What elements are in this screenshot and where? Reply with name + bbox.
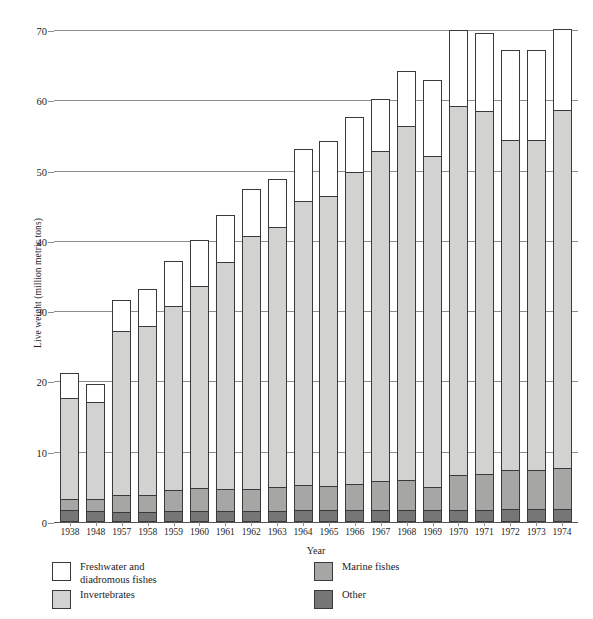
bar-segment-1968-inv — [397, 126, 416, 481]
legend-item-fresh[interactable]: Freshwater and diadromous fishes — [52, 561, 157, 586]
x-tick-label-1962: 1962 — [242, 527, 261, 537]
bar-segment-1948-oth — [86, 511, 105, 522]
bar-segment-1959-inv — [164, 306, 183, 491]
bar-segment-1938-fresh — [60, 373, 79, 399]
bar-segment-1972-fresh — [501, 50, 520, 141]
bar-segment-1957-mar — [112, 495, 131, 513]
bar-segment-1970-oth — [449, 510, 468, 522]
x-tick-label-1970: 1970 — [449, 527, 468, 537]
legend-label-inv: Invertebrates — [80, 589, 135, 602]
bar-segment-1966-inv — [345, 172, 364, 484]
bar-segment-1971-mar — [475, 474, 494, 511]
bar-segment-1968-mar — [397, 480, 416, 511]
bar-segment-1966-mar — [345, 484, 364, 512]
bar-segment-1964-fresh — [294, 149, 313, 203]
x-tick-label-1963: 1963 — [268, 527, 287, 537]
y-tick-label-30: 30 — [37, 307, 48, 318]
x-tick-mark-1968 — [407, 522, 408, 526]
bar-segment-1973-fresh — [527, 50, 546, 141]
legend-swatch-oth-icon — [314, 590, 333, 609]
x-tick-mark-1974 — [562, 522, 563, 526]
y-axis-title: Live weight (million metric tons) — [33, 183, 43, 383]
bar-segment-1974-fresh — [553, 29, 572, 111]
bar-segment-1973-mar — [527, 470, 546, 510]
bar-segment-1958-oth — [138, 512, 157, 522]
bar-segment-1963-mar — [268, 487, 287, 512]
legend-item-mar[interactable]: Marine fishes — [314, 561, 399, 581]
x-tick-mark-1971 — [484, 522, 485, 526]
bar-segment-1970-inv — [449, 106, 468, 476]
bar-segment-1959-fresh — [164, 261, 183, 307]
bar-segment-1964-mar — [294, 485, 313, 511]
x-tick-mark-1962 — [251, 522, 252, 526]
x-tick-mark-1963 — [277, 522, 278, 526]
bar-segment-1957-fresh — [112, 300, 131, 333]
bar-segment-1948-fresh — [86, 384, 105, 403]
bar-segment-1968-fresh — [397, 71, 416, 127]
legend-label-fresh: Freshwater and diadromous fishes — [80, 561, 157, 586]
y-tick-label-20: 20 — [37, 377, 48, 388]
bar-segment-1959-mar — [164, 490, 183, 512]
bar-segment-1960-oth — [190, 511, 209, 522]
x-tick-label-1948: 1948 — [86, 527, 105, 537]
x-tick-label-1968: 1968 — [397, 527, 416, 537]
bar-segment-1961-oth — [216, 511, 235, 522]
x-tick-label-1958: 1958 — [138, 527, 157, 537]
bar-segment-1968-oth — [397, 510, 416, 522]
x-tick-mark-1966 — [355, 522, 356, 526]
bar-segment-1963-oth — [268, 511, 287, 522]
x-tick-label-1938: 1938 — [60, 527, 79, 537]
bar-segment-1957-inv — [112, 331, 131, 496]
y-tick-label-60: 60 — [37, 96, 48, 107]
bar-segment-1958-fresh — [138, 289, 157, 327]
bar-segment-1970-fresh — [449, 30, 468, 107]
bar-segment-1963-fresh — [268, 179, 287, 228]
x-tick-label-1960: 1960 — [190, 527, 209, 537]
y-tick-label-70: 70 — [37, 26, 48, 37]
bar-segment-1962-mar — [242, 489, 261, 512]
bar-segment-1948-inv — [86, 402, 105, 500]
legend-label-mar: Marine fishes — [342, 561, 399, 574]
bar-segment-1962-fresh — [242, 189, 261, 238]
x-tick-mark-1969 — [433, 522, 434, 526]
bar-segment-1974-oth — [553, 509, 572, 522]
bar-segment-1969-fresh — [423, 80, 442, 157]
bar-segment-1972-inv — [501, 140, 520, 471]
bar-segment-1948-mar — [86, 499, 105, 513]
x-tick-mark-1970 — [458, 522, 459, 526]
bar-segment-1961-mar — [216, 489, 235, 512]
x-tick-mark-1959 — [174, 522, 175, 526]
bar-segment-1958-mar — [138, 495, 157, 513]
x-tick-label-1974: 1974 — [553, 527, 572, 537]
bar-segment-1967-inv — [371, 151, 390, 482]
y-tick-label-10: 10 — [37, 447, 48, 458]
y-tick-label-50: 50 — [37, 166, 48, 177]
bar-segment-1965-mar — [319, 486, 338, 512]
bar-segment-1958-inv — [138, 326, 157, 496]
bar-segment-1965-inv — [319, 196, 338, 487]
legend-item-inv[interactable]: Invertebrates — [52, 589, 135, 609]
y-tick-mark-0 — [48, 523, 54, 524]
legend-swatch-fresh-icon — [52, 562, 71, 581]
x-tick-label-1973: 1973 — [527, 527, 546, 537]
x-tick-mark-1972 — [510, 522, 511, 526]
x-tick-mark-1958 — [148, 522, 149, 526]
legend-item-oth[interactable]: Other — [314, 589, 366, 609]
bar-segment-1960-fresh — [190, 240, 209, 287]
bar-segment-1974-mar — [553, 468, 572, 510]
bar-segment-1961-inv — [216, 262, 235, 489]
bar-segment-1971-oth — [475, 510, 494, 522]
bar-segment-1967-fresh — [371, 99, 390, 152]
y-tick-label-40: 40 — [37, 236, 48, 247]
bar-segment-1967-mar — [371, 481, 390, 511]
bar-segment-1961-fresh — [216, 215, 235, 263]
bar-segment-1972-oth — [501, 509, 520, 522]
bar-segment-1969-mar — [423, 487, 442, 512]
bar-segment-1962-oth — [242, 511, 261, 522]
bar-segment-1962-inv — [242, 236, 261, 490]
bar-segment-1959-oth — [164, 511, 183, 522]
x-tick-mark-1948 — [96, 522, 97, 526]
stacked-bar-chart-figure: Live weight (million metric tons) 010203… — [0, 0, 593, 619]
x-tick-label-1961: 1961 — [216, 527, 235, 537]
x-tick-label-1965: 1965 — [319, 527, 338, 537]
